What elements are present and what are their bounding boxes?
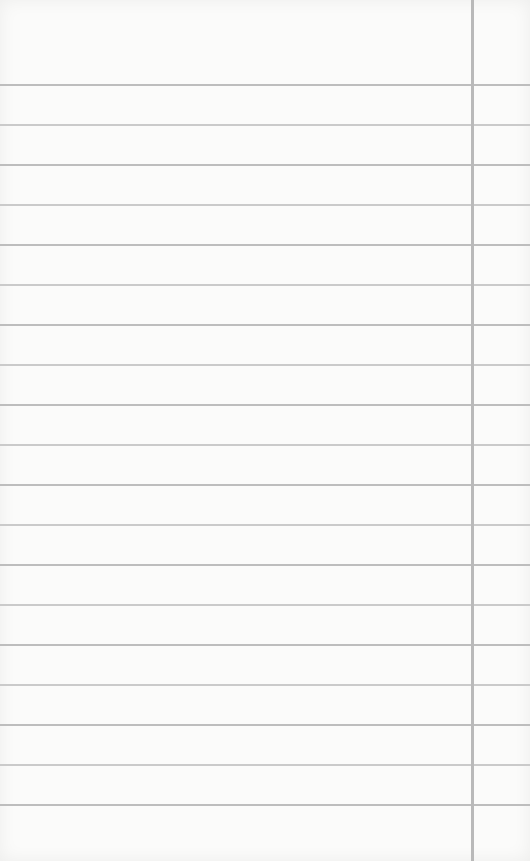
- ruled-line: [0, 764, 530, 766]
- ruled-line: [0, 204, 530, 206]
- ruled-line: [0, 524, 530, 526]
- ruled-line: [0, 644, 530, 646]
- ruled-line: [0, 324, 530, 326]
- ruled-line: [0, 724, 530, 726]
- ruled-line: [0, 164, 530, 166]
- ruled-line: [0, 284, 530, 286]
- ruled-line: [0, 484, 530, 486]
- ruled-line: [0, 564, 530, 566]
- ruled-line: [0, 364, 530, 366]
- ruled-line: [0, 244, 530, 246]
- ruled-line: [0, 124, 530, 126]
- ruled-line: [0, 604, 530, 606]
- ruled-line: [0, 84, 530, 86]
- ruled-line: [0, 804, 530, 806]
- margin-line: [471, 0, 474, 861]
- ruled-line: [0, 684, 530, 686]
- ruled-line: [0, 404, 530, 406]
- lined-paper: [0, 0, 530, 861]
- ruled-line: [0, 444, 530, 446]
